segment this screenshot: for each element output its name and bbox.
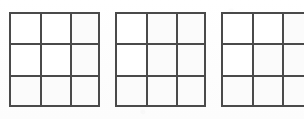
grid-inner [115, 12, 206, 107]
grid-line-vertical [282, 12, 284, 107]
grid-inner [221, 12, 304, 107]
grid-cell[interactable] [176, 12, 206, 43]
grid-cell[interactable] [70, 12, 100, 43]
grid-cell[interactable] [115, 43, 146, 75]
grid-line-horizontal [115, 75, 206, 77]
grid-cell[interactable] [176, 43, 206, 75]
grid-cell[interactable] [221, 75, 252, 107]
grid-border-horizontal [115, 105, 206, 107]
grid-border-horizontal [9, 12, 100, 14]
grid-cell[interactable] [115, 12, 146, 43]
grid-line-vertical [40, 12, 42, 107]
grid-border-vertical [9, 12, 11, 107]
grid-cell[interactable] [221, 43, 252, 75]
grid-line-horizontal [221, 43, 304, 45]
grid-border-horizontal [221, 12, 304, 14]
grid-cell[interactable] [70, 43, 100, 75]
grid-cell[interactable] [282, 43, 304, 75]
grid-cell[interactable] [282, 12, 304, 43]
grid-cell[interactable] [115, 75, 146, 107]
grid-inner [9, 12, 100, 107]
grid-cell[interactable] [176, 75, 206, 107]
grid-border-vertical [204, 12, 206, 107]
grid-cell[interactable] [282, 75, 304, 107]
grid-cell[interactable] [221, 12, 252, 43]
grid-line-horizontal [9, 43, 100, 45]
grid-border-horizontal [221, 105, 304, 107]
grid-cell[interactable] [146, 75, 176, 107]
grid-cell[interactable] [146, 12, 176, 43]
grid-cell[interactable] [9, 75, 40, 107]
grid-cell[interactable] [40, 43, 70, 75]
grid-cell[interactable] [9, 12, 40, 43]
grid-line-vertical [146, 12, 148, 107]
grid-line-horizontal [115, 43, 206, 45]
grid-cell[interactable] [252, 12, 282, 43]
grid-cell[interactable] [252, 75, 282, 107]
grid-border-vertical [98, 12, 100, 107]
grid-border-vertical [115, 12, 117, 107]
grid-3 [221, 12, 304, 107]
grid-1 [9, 12, 100, 107]
grid-cell[interactable] [146, 43, 176, 75]
grid-2 [115, 12, 206, 107]
figure-canvas: Three 3x3 grid squares Row of three squa… [0, 0, 304, 119]
grid-line-vertical [176, 12, 178, 107]
grid-line-horizontal [221, 75, 304, 77]
grid-line-vertical [70, 12, 72, 107]
grid-line-vertical [252, 12, 254, 107]
grid-line-horizontal [9, 75, 100, 77]
grid-cell[interactable] [40, 75, 70, 107]
grid-border-vertical [221, 12, 223, 107]
grid-cell[interactable] [252, 43, 282, 75]
grid-border-horizontal [9, 105, 100, 107]
grid-cell[interactable] [70, 75, 100, 107]
grid-cell[interactable] [9, 43, 40, 75]
grid-cell[interactable] [40, 12, 70, 43]
grid-border-horizontal [115, 12, 206, 14]
